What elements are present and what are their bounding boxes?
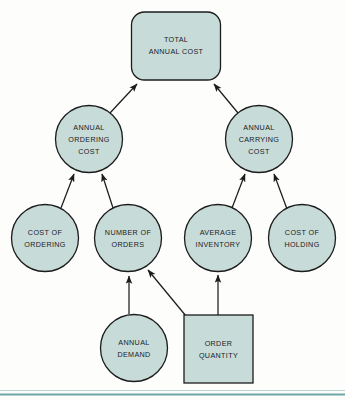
annual-demand-shape: [101, 315, 168, 382]
number-of-orders-label-line-1: NUMBER OF: [105, 228, 152, 237]
annual-ordering-cost-label-line-3: COST: [78, 147, 100, 156]
annual-demand-label-line-1: ANNUAL: [118, 338, 149, 347]
node-order-quantity[interactable]: ORDER QUANTITY: [184, 315, 253, 383]
edge-ordering-to-total: [110, 84, 137, 113]
node-average-inventory[interactable]: AVERAGE INVENTORY: [185, 205, 252, 272]
edge-number-of-orders-to-ordering: [102, 174, 113, 208]
edge-cost-of-ordering-to-ordering: [61, 174, 74, 208]
cost-of-holding-label-line-2: HOLDING: [284, 240, 319, 249]
node-layer: TOTAL ANNUAL COST ANNUAL ORDERING COST A…: [12, 12, 336, 383]
annual-carrying-cost-label-line-2: CARRYING: [239, 135, 280, 144]
cost-of-ordering-label-line-1: COST OF: [28, 228, 63, 237]
annual-demand-label-line-2: DEMAND: [117, 350, 150, 359]
average-inventory-label-line-1: AVERAGE: [200, 228, 237, 237]
cost-of-holding-shape: [269, 205, 336, 272]
total-annual-cost-diagram: TOTAL ANNUAL COST ANNUAL ORDERING COST A…: [0, 0, 345, 400]
average-inventory-shape: [185, 205, 252, 272]
annual-ordering-cost-label-line-2: ORDERING: [68, 135, 110, 144]
edge-carrying-to-total: [214, 84, 238, 113]
edge-order-quantity-to-number-of-orders: [148, 270, 186, 316]
node-cost-of-ordering[interactable]: COST OF ORDERING: [12, 205, 79, 272]
edge-average-inventory-to-carrying: [232, 174, 245, 208]
node-annual-carrying-cost[interactable]: ANNUAL CARRYING COST: [226, 106, 293, 173]
total-annual-cost-label-line-2: ANNUAL COST: [149, 47, 204, 56]
cost-of-ordering-label-line-2: ORDERING: [24, 240, 66, 249]
node-annual-demand[interactable]: ANNUAL DEMAND: [101, 315, 168, 382]
node-cost-of-holding[interactable]: COST OF HOLDING: [269, 205, 336, 272]
total-annual-cost-label-line-1: TOTAL: [164, 35, 188, 44]
order-quantity-label-line-1: ORDER: [205, 339, 233, 348]
cost-of-ordering-shape: [12, 205, 79, 272]
node-annual-ordering-cost[interactable]: ANNUAL ORDERING COST: [56, 106, 123, 173]
order-quantity-label-line-2: QUANTITY: [199, 351, 238, 360]
annual-carrying-cost-label-line-3: COST: [248, 147, 270, 156]
bottom-rule: [0, 391, 345, 395]
edge-cost-of-holding-to-carrying: [274, 174, 287, 209]
average-inventory-label-line-2: INVENTORY: [196, 240, 241, 249]
node-total-annual-cost[interactable]: TOTAL ANNUAL COST: [132, 12, 221, 80]
annual-carrying-cost-label-line-1: ANNUAL: [243, 123, 274, 132]
node-number-of-orders[interactable]: NUMBER OF ORDERS: [95, 205, 162, 272]
number-of-orders-shape: [95, 205, 162, 272]
order-quantity-shape: [184, 315, 253, 383]
number-of-orders-label-line-2: ORDERS: [112, 240, 145, 249]
diagram-page: TOTAL ANNUAL COST ANNUAL ORDERING COST A…: [0, 0, 345, 400]
annual-ordering-cost-label-line-1: ANNUAL: [73, 123, 104, 132]
cost-of-holding-label-line-1: COST OF: [285, 228, 320, 237]
